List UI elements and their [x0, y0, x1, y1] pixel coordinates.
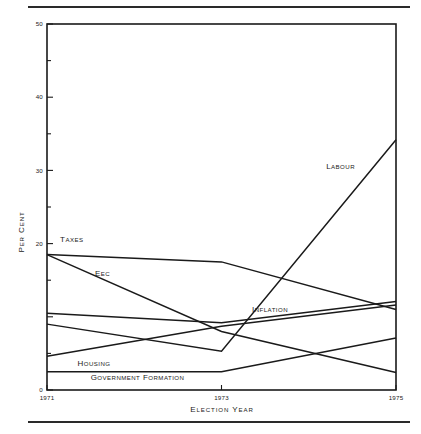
series-label-housing: HOUSING	[78, 359, 111, 368]
series-label-inflation: INFLATION	[252, 305, 288, 314]
y-tick-label: 40	[36, 93, 44, 100]
series-label-eec: EEC	[95, 269, 110, 278]
series-label-government-formation: GOVERNMENT FORMATION	[91, 373, 185, 382]
x-tick-label: 1975	[389, 394, 404, 401]
y-tick-label: 30	[36, 167, 44, 174]
y-tick-label: 20	[36, 240, 44, 247]
x-tick-label: 1973	[214, 394, 229, 401]
series-line-labour	[47, 140, 396, 352]
y-axis-title: PER CENT	[17, 211, 26, 252]
y-axis-ticks	[47, 24, 53, 390]
x-axis-tick-labels: 197119731975	[40, 394, 404, 401]
series-label-taxes: TAXES	[60, 235, 83, 244]
x-axis-title: ELECTION YEAR	[190, 405, 253, 414]
y-axis-tick-labels: 020304050	[36, 20, 44, 393]
series-line-taxes	[47, 255, 396, 310]
y-tick-label: 0	[39, 386, 43, 393]
chart-svg: 020304050 197119731975 TAXESEECINFLATION…	[0, 0, 421, 434]
series-label-labour: LABOUR	[326, 162, 355, 171]
x-tick-label: 1971	[40, 394, 55, 401]
plot-frame	[47, 24, 396, 390]
series-lines-group	[47, 140, 396, 373]
y-tick-label: 50	[36, 20, 44, 27]
line-chart-figure: 020304050 197119731975 TAXESEECINFLATION…	[0, 0, 421, 434]
